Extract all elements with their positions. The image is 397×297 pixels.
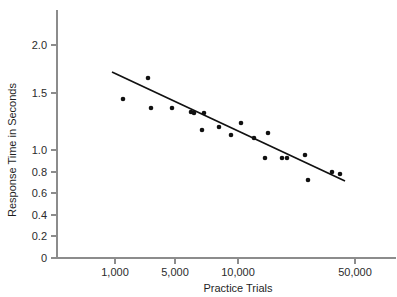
x-axis-ticks — [115, 258, 355, 264]
data-point — [192, 111, 197, 116]
data-point — [280, 156, 285, 161]
y-tick-label: 0.4 — [32, 209, 47, 221]
data-point — [202, 111, 207, 116]
y-tick-label: 1.5 — [32, 87, 47, 99]
data-point — [229, 133, 234, 138]
data-point — [306, 178, 311, 183]
data-point — [330, 170, 335, 175]
data-point — [252, 136, 257, 141]
data-point — [266, 131, 271, 136]
x-tick-label: 5,000 — [161, 266, 189, 278]
y-axis-title: Response Time in Seconds — [6, 83, 18, 217]
y-tick-label: 1.0 — [32, 144, 47, 156]
data-point — [121, 97, 126, 102]
x-axis-tick-labels: 1,000 5,000 10,000 50,000 — [101, 266, 372, 278]
scatter-plot-svg: 2.0 1.5 1.0 0.8 0.6 0.4 0.2 0 1,000 5,00… — [0, 0, 397, 297]
y-axis-tick-labels: 2.0 1.5 1.0 0.8 0.6 0.4 0.2 0 — [32, 39, 47, 264]
y-tick-label: 0.8 — [32, 166, 47, 178]
y-tick-label: 2.0 — [32, 39, 47, 51]
y-tick-label: 0 — [41, 252, 47, 264]
x-tick-label: 1,000 — [101, 266, 129, 278]
data-point — [338, 172, 343, 177]
data-point — [217, 125, 222, 130]
data-point — [170, 106, 175, 111]
y-axis-ticks — [51, 45, 57, 258]
data-point — [200, 128, 205, 133]
x-tick-label: 10,000 — [221, 266, 255, 278]
y-tick-label: 0.6 — [32, 187, 47, 199]
best-fit-line — [112, 72, 345, 181]
chart-container: 2.0 1.5 1.0 0.8 0.6 0.4 0.2 0 1,000 5,00… — [0, 0, 397, 297]
data-point — [239, 121, 244, 126]
x-axis-title: Practice Trials — [203, 282, 273, 294]
data-point — [146, 76, 151, 81]
x-tick-label: 50,000 — [338, 266, 372, 278]
y-tick-label: 0.2 — [32, 230, 47, 242]
data-point — [303, 153, 308, 158]
data-point — [285, 156, 290, 161]
data-point — [149, 106, 154, 111]
data-point — [263, 156, 268, 161]
